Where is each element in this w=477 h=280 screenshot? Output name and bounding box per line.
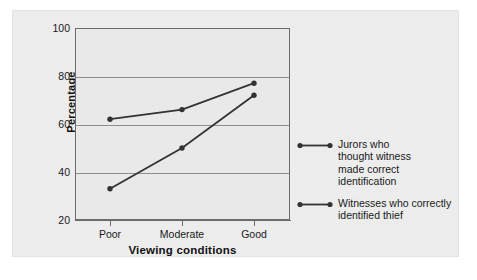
- legend-entry-jurors[interactable]: Jurors who thought witness made correct …: [296, 138, 466, 188]
- chart-figure: Percentage 100 80 60 40 20 Poor Moderate…: [0, 0, 477, 280]
- gridline-60: [76, 125, 289, 126]
- gridline-80: [76, 77, 289, 78]
- x-tick-mark-moderate: [182, 221, 183, 226]
- legend-label-jurors: Jurors who thought witness made correct …: [338, 138, 466, 188]
- y-tick-label-80: 80: [36, 71, 70, 82]
- x-axis-line: [75, 220, 291, 222]
- x-tick-label-poor: Poor: [99, 228, 121, 240]
- legend-entry-witnesses[interactable]: Witnesses who correctly identified thief: [296, 197, 466, 222]
- legend: Jurors who thought witness made correct …: [296, 138, 466, 230]
- x-tick-label-good: Good: [241, 228, 267, 240]
- plot-area: [75, 28, 290, 220]
- legend-marker-icon: [296, 142, 334, 149]
- y-tick-label-40: 40: [36, 167, 70, 178]
- legend-label-witnesses: Witnesses who correctly identified thief: [338, 197, 466, 222]
- y-tick-label-60: 60: [36, 119, 70, 130]
- gridline-40: [76, 173, 289, 174]
- y-tick-label-20: 20: [36, 215, 70, 226]
- y-tick-label-100: 100: [36, 23, 70, 34]
- legend-marker-icon: [296, 201, 334, 208]
- x-tick-mark-poor: [110, 221, 111, 226]
- y-axis-ticks: 100 80 60 40 20: [30, 0, 70, 280]
- x-tick-label-moderate: Moderate: [160, 228, 204, 240]
- x-axis-title: Viewing conditions: [75, 244, 290, 256]
- x-tick-mark-good: [254, 221, 255, 226]
